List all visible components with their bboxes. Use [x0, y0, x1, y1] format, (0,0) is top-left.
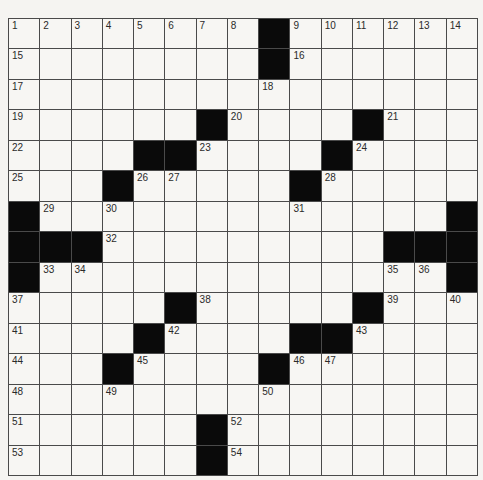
grid-cell[interactable]: 33 [40, 263, 70, 292]
grid-cell[interactable] [384, 385, 414, 414]
grid-cell[interactable] [134, 415, 164, 444]
grid-cell[interactable] [353, 49, 383, 78]
grid-cell[interactable]: 30 [103, 202, 133, 231]
grid-cell[interactable] [103, 324, 133, 353]
grid-cell[interactable] [165, 80, 195, 109]
grid-cell[interactable] [197, 324, 227, 353]
grid-cell[interactable]: 41 [9, 324, 39, 353]
grid-cell[interactable] [103, 110, 133, 139]
grid-cell[interactable]: 51 [9, 415, 39, 444]
grid-cell[interactable] [259, 446, 289, 475]
grid-cell[interactable]: 45 [134, 354, 164, 383]
grid-cell[interactable] [447, 385, 477, 414]
grid-cell[interactable] [40, 324, 70, 353]
grid-cell[interactable]: 16 [290, 49, 320, 78]
grid-cell[interactable]: 50 [259, 385, 289, 414]
grid-cell[interactable] [197, 232, 227, 261]
grid-cell[interactable]: 35 [384, 263, 414, 292]
grid-cell[interactable] [353, 263, 383, 292]
grid-cell[interactable] [259, 232, 289, 261]
grid-cell[interactable] [165, 415, 195, 444]
grid-cell[interactable] [259, 202, 289, 231]
grid-cell[interactable]: 28 [322, 171, 352, 200]
grid-cell[interactable] [259, 415, 289, 444]
grid-cell[interactable]: 39 [384, 293, 414, 322]
grid-cell[interactable] [228, 354, 258, 383]
grid-cell[interactable] [259, 263, 289, 292]
grid-cell[interactable]: 40 [447, 293, 477, 322]
grid-cell[interactable] [415, 293, 445, 322]
grid-cell[interactable]: 46 [290, 354, 320, 383]
grid-cell[interactable] [103, 80, 133, 109]
grid-cell[interactable] [384, 446, 414, 475]
grid-cell[interactable] [447, 110, 477, 139]
grid-cell[interactable] [197, 385, 227, 414]
grid-cell[interactable] [353, 354, 383, 383]
grid-cell[interactable] [322, 80, 352, 109]
grid-cell[interactable]: 23 [197, 141, 227, 170]
grid-cell[interactable]: 31 [290, 202, 320, 231]
grid-cell[interactable]: 38 [197, 293, 227, 322]
grid-cell[interactable] [165, 110, 195, 139]
grid-cell[interactable] [72, 141, 102, 170]
grid-cell[interactable] [290, 415, 320, 444]
grid-cell[interactable] [259, 141, 289, 170]
grid-cell[interactable] [40, 171, 70, 200]
grid-cell[interactable]: 9 [290, 19, 320, 48]
grid-cell[interactable] [103, 263, 133, 292]
grid-cell[interactable]: 1 [9, 19, 39, 48]
grid-cell[interactable]: 21 [384, 110, 414, 139]
grid-cell[interactable] [290, 232, 320, 261]
grid-cell[interactable]: 8 [228, 19, 258, 48]
grid-cell[interactable] [134, 263, 164, 292]
grid-cell[interactable] [415, 49, 445, 78]
grid-cell[interactable] [228, 293, 258, 322]
grid-cell[interactable] [40, 446, 70, 475]
grid-cell[interactable] [353, 385, 383, 414]
grid-cell[interactable] [384, 171, 414, 200]
grid-cell[interactable]: 53 [9, 446, 39, 475]
grid-cell[interactable]: 54 [228, 446, 258, 475]
grid-cell[interactable]: 15 [9, 49, 39, 78]
grid-cell[interactable] [415, 324, 445, 353]
grid-cell[interactable] [72, 49, 102, 78]
grid-cell[interactable] [384, 49, 414, 78]
grid-cell[interactable] [40, 110, 70, 139]
grid-cell[interactable]: 37 [9, 293, 39, 322]
grid-cell[interactable] [447, 80, 477, 109]
grid-cell[interactable] [259, 171, 289, 200]
grid-cell[interactable] [322, 202, 352, 231]
grid-cell[interactable]: 20 [228, 110, 258, 139]
grid-cell[interactable] [447, 415, 477, 444]
grid-cell[interactable]: 29 [40, 202, 70, 231]
grid-cell[interactable] [228, 80, 258, 109]
grid-cell[interactable] [72, 110, 102, 139]
grid-cell[interactable] [353, 80, 383, 109]
grid-cell[interactable] [40, 415, 70, 444]
grid-cell[interactable] [134, 202, 164, 231]
grid-cell[interactable] [228, 385, 258, 414]
grid-cell[interactable]: 22 [9, 141, 39, 170]
grid-cell[interactable] [165, 354, 195, 383]
grid-cell[interactable] [40, 354, 70, 383]
grid-cell[interactable] [447, 171, 477, 200]
grid-cell[interactable] [165, 232, 195, 261]
grid-cell[interactable] [103, 293, 133, 322]
grid-cell[interactable] [259, 110, 289, 139]
grid-cell[interactable] [228, 324, 258, 353]
grid-cell[interactable] [290, 110, 320, 139]
grid-cell[interactable]: 18 [259, 80, 289, 109]
grid-cell[interactable] [40, 141, 70, 170]
grid-cell[interactable] [259, 324, 289, 353]
grid-cell[interactable]: 36 [415, 263, 445, 292]
grid-cell[interactable] [322, 446, 352, 475]
grid-cell[interactable] [384, 415, 414, 444]
grid-cell[interactable] [322, 415, 352, 444]
grid-cell[interactable] [165, 202, 195, 231]
grid-cell[interactable] [197, 263, 227, 292]
grid-cell[interactable] [447, 354, 477, 383]
grid-cell[interactable] [384, 354, 414, 383]
grid-cell[interactable] [165, 446, 195, 475]
grid-cell[interactable]: 7 [197, 19, 227, 48]
grid-cell[interactable] [40, 293, 70, 322]
